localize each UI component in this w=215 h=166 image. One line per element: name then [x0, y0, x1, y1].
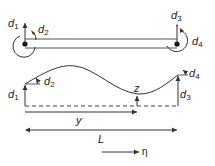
- undeformed-beam: [25, 39, 177, 48]
- top-d2-label: d2: [38, 23, 49, 37]
- top-d4-label: d4: [192, 35, 203, 49]
- d2-slope-arrow-icon: [36, 78, 38, 84]
- top-d3-label: d3: [171, 9, 182, 23]
- curve-d3-label: d3: [180, 88, 191, 102]
- eta-label: η: [142, 146, 148, 157]
- curve-d4-label: d4: [189, 67, 200, 81]
- curve-d1-label: d1: [8, 88, 19, 102]
- top-d1-label: d1: [8, 17, 19, 31]
- beam-element-diagram: d1 d2 d3 d4 d1 d2 d3 d4 z y L η: [0, 0, 215, 166]
- curve-d2-label: d2: [44, 75, 55, 89]
- curve-z-label: z: [133, 82, 140, 94]
- L-label: L: [98, 133, 104, 145]
- d4-slope-arrow-icon: [183, 70, 186, 75]
- y-label: y: [75, 114, 83, 126]
